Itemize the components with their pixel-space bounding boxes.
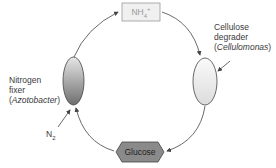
cellulose-degrader-label: Cellulose degrader (Cellulomonas) bbox=[214, 22, 271, 52]
nitrogen-fixer-cell bbox=[63, 57, 84, 105]
cellulose-degrader-line2: degrader bbox=[214, 32, 271, 42]
arrow-n2-to-fixer bbox=[58, 110, 70, 127]
cellulose-degrader-line1: Cellulose bbox=[214, 22, 271, 32]
nitrogen-fixer-label: Nitrogen fixer (Azotobacter) bbox=[9, 75, 60, 105]
n2-sub: 2 bbox=[52, 135, 55, 141]
azotobacter-text: Azotobacter bbox=[12, 95, 57, 105]
arrow-glucose-to-fixer bbox=[76, 108, 114, 151]
nitrogen-fixer-organism: (Azotobacter) bbox=[9, 95, 60, 105]
cellulomonas-text: Cellulomonas bbox=[217, 42, 269, 52]
arrow-label-to-degrader bbox=[218, 61, 230, 71]
glucose-label: Glucose bbox=[116, 147, 164, 157]
arrow-ammonium-to-degrader bbox=[162, 12, 200, 55]
nitrogen-fixer-line2: fixer bbox=[9, 85, 60, 95]
ammonium-text: NH bbox=[131, 7, 143, 17]
arrow-degrader-to-glucose bbox=[167, 106, 205, 151]
arrow-fixer-to-ammonium bbox=[74, 12, 118, 57]
cellulose-degrader-cell bbox=[193, 58, 217, 105]
ammonium-sub: 4 bbox=[144, 13, 147, 19]
n2-label: N2 bbox=[46, 129, 55, 143]
ammonium-sup: + bbox=[147, 6, 151, 12]
ammonium-label: NH4+ bbox=[122, 6, 160, 19]
cellulose-degrader-organism: (Cellulomonas) bbox=[214, 42, 271, 52]
nitrogen-fixer-line1: Nitrogen bbox=[9, 75, 60, 85]
